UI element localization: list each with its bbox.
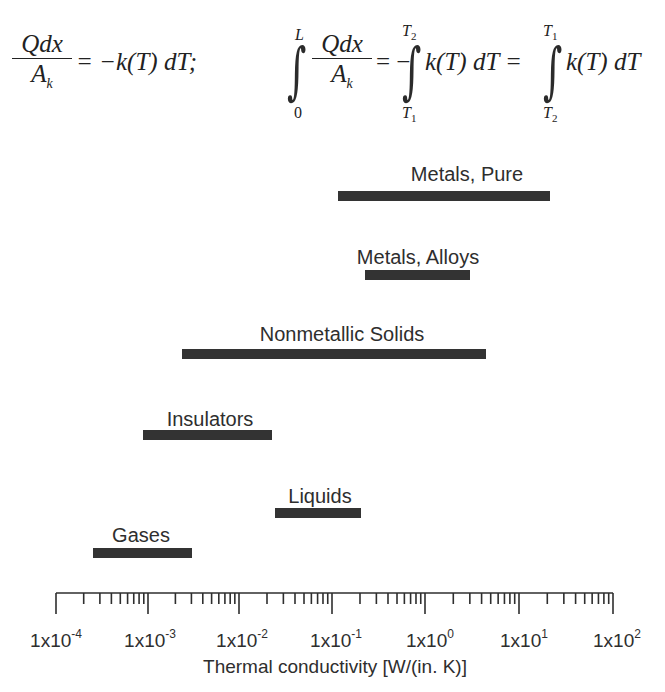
- tick-label: 1x100: [406, 627, 454, 652]
- x-axis: [0, 0, 665, 692]
- tick-label: 1x10-2: [216, 627, 268, 652]
- tick-label: 1x10-1: [310, 627, 362, 652]
- tick-label: 1x10-4: [30, 627, 82, 652]
- x-axis-label: Thermal conductivity [W/(in. K)]: [203, 656, 467, 678]
- tick-label: 1x10-3: [124, 627, 176, 652]
- tick-label: 1x102: [593, 627, 641, 652]
- tick-label: 1x101: [500, 627, 548, 652]
